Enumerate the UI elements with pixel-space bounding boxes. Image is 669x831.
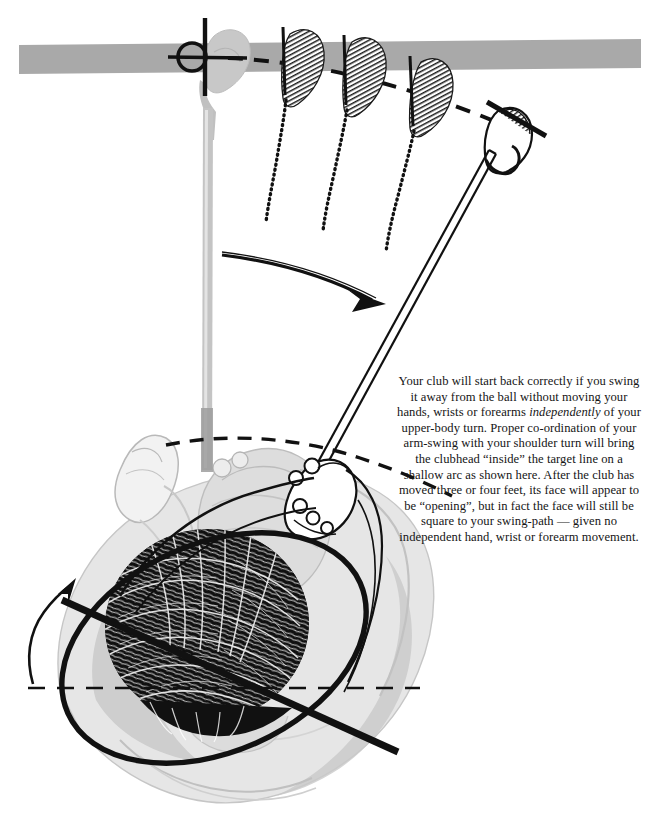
target-line-band: [19, 39, 641, 74]
knuckle: [213, 459, 231, 477]
illustration-page: Your club will start back correctly if y…: [0, 0, 669, 831]
caption-text: Your club will start back correctly if y…: [395, 374, 643, 546]
caption-emphasis: independently: [529, 405, 600, 419]
caption-part-2: of your upper-body turn. Proper co-ordin…: [399, 405, 641, 544]
knuckle: [232, 452, 248, 468]
